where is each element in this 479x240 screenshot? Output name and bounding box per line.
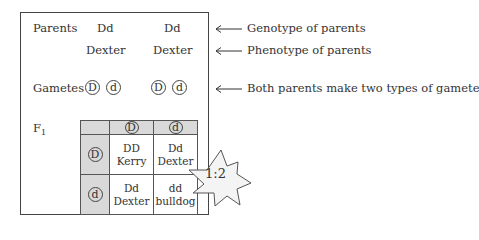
punnett-square: D d D DDKerry DdDexter d DdDexter ddbull… — [80, 120, 198, 215]
offspring-cell: DdDexter — [110, 175, 154, 215]
gamete-allele: D — [85, 80, 100, 95]
row-header: D — [81, 135, 110, 175]
parent2-genotype: Dd — [164, 21, 181, 35]
left-arrow-icon — [215, 84, 243, 94]
parents-label: Parents — [33, 21, 77, 35]
parent2-phenotype: Dexter — [153, 43, 192, 57]
f1-label: F1 — [33, 121, 46, 140]
col-header: D — [110, 121, 154, 135]
corner-cell — [81, 121, 110, 135]
annotation-genotype: Genotype of parents — [215, 21, 366, 35]
col-header: d — [154, 121, 198, 135]
parent1-genotype: Dd — [97, 21, 114, 35]
annotation-phenotype: Phenotype of parents — [215, 43, 372, 57]
gametes-label: Gametes — [33, 81, 84, 95]
left-arrow-icon — [215, 24, 243, 34]
left-arrow-icon — [215, 46, 243, 56]
gamete-allele: D — [151, 80, 166, 95]
gamete-allele: d — [106, 80, 121, 95]
ratio-label: 1:2 — [205, 166, 226, 181]
annotation-gametes: Both parents make two types of gamete — [215, 81, 479, 95]
offspring-cell: DDKerry — [110, 135, 154, 175]
gamete-allele: d — [172, 80, 187, 95]
parent1-phenotype: Dexter — [86, 43, 125, 57]
row-header: d — [81, 175, 110, 215]
